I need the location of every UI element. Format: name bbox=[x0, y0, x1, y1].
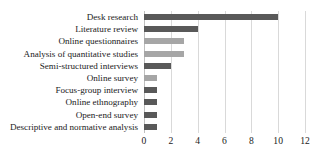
bar-row bbox=[144, 96, 305, 108]
category-label: Analysis of quantitative studies bbox=[0, 48, 141, 60]
tick-label: 6 bbox=[222, 134, 227, 148]
category-label: Descriptive and normative analysis bbox=[0, 121, 141, 133]
tick-label: 8 bbox=[249, 134, 254, 148]
category-label: Online questionnaires bbox=[0, 35, 141, 47]
category-label: Literature review bbox=[0, 23, 141, 35]
bar bbox=[144, 14, 278, 20]
tick-label: 12 bbox=[300, 134, 310, 148]
category-axis-labels: Desk researchLiterature reviewOnline que… bbox=[0, 11, 141, 133]
bar bbox=[144, 124, 157, 130]
bar-row bbox=[144, 35, 305, 47]
bar-row bbox=[144, 11, 305, 23]
category-label: Desk research bbox=[0, 11, 141, 23]
bar bbox=[144, 26, 198, 32]
bar-row bbox=[144, 60, 305, 72]
plot-area bbox=[144, 11, 305, 133]
tick-label: 4 bbox=[195, 134, 200, 148]
category-label: Semi-structured interviews bbox=[0, 60, 141, 72]
bar-row bbox=[144, 84, 305, 96]
bar-row bbox=[144, 48, 305, 60]
bar-row bbox=[144, 72, 305, 84]
bar-row bbox=[144, 121, 305, 133]
bar-row bbox=[144, 23, 305, 35]
gridline-12 bbox=[305, 11, 306, 133]
tick-label: 0 bbox=[142, 134, 147, 148]
bar-chart: Desk researchLiterature reviewOnline que… bbox=[0, 0, 321, 161]
category-label: Online survey bbox=[0, 72, 141, 84]
bar bbox=[144, 87, 157, 93]
bar-row bbox=[144, 109, 305, 121]
bar bbox=[144, 112, 157, 118]
bar bbox=[144, 75, 157, 81]
value-axis-tick-labels: 024681012 bbox=[144, 134, 305, 150]
bar bbox=[144, 51, 184, 57]
bar-series bbox=[144, 11, 305, 133]
tick-label: 2 bbox=[168, 134, 173, 148]
category-label: Open-end survey bbox=[0, 109, 141, 121]
bar bbox=[144, 63, 171, 69]
category-label: Online ethnography bbox=[0, 96, 141, 108]
bar bbox=[144, 99, 157, 105]
bar bbox=[144, 38, 184, 44]
category-label: Focus-group interview bbox=[0, 84, 141, 96]
tick-label: 10 bbox=[273, 134, 283, 148]
